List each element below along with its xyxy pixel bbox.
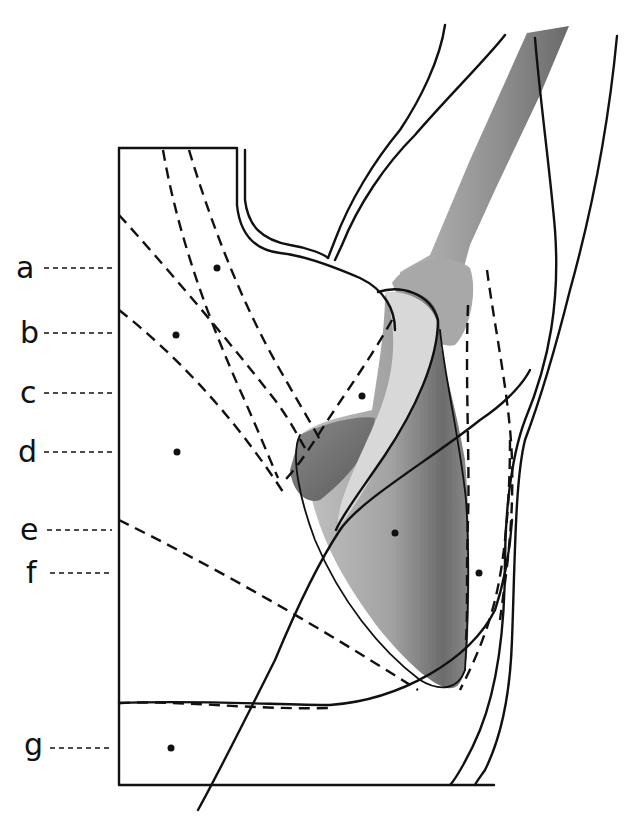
marker-e	[392, 530, 399, 537]
label-b: b	[20, 315, 39, 350]
marker-d	[174, 449, 181, 456]
marker-c	[359, 393, 366, 400]
anatomical-diagram: a b c d e f g	[0, 0, 631, 830]
label-f: f	[26, 555, 38, 590]
label-e: e	[20, 512, 38, 547]
labels: a b c d e f g	[16, 250, 43, 762]
marker-a	[214, 265, 221, 272]
marker-f	[476, 570, 483, 577]
label-c: c	[20, 375, 37, 410]
label-g: g	[24, 727, 43, 762]
leader-lines	[44, 268, 112, 748]
label-d: d	[18, 434, 37, 469]
marker-b	[173, 332, 180, 339]
label-a: a	[16, 250, 34, 285]
marker-g	[168, 745, 175, 752]
